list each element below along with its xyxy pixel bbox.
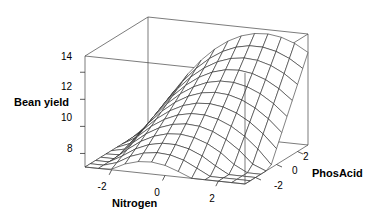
y-tick-label-2: -2: [274, 180, 283, 191]
box-edge-top-far: [148, 17, 308, 34]
y-tick-label-1: 0: [292, 165, 298, 176]
z-tick-label-1: 12: [61, 81, 73, 92]
y-tick-1: [277, 165, 283, 168]
z-tick-label-2: 10: [61, 112, 73, 123]
x-axis-title: Nitrogen: [112, 197, 158, 209]
z-axis-title: Bean yield: [14, 96, 69, 108]
plot-canvas: Bean yield Nitrogen PhosAcid 14 12 10 8 …: [0, 0, 373, 221]
y-axis-title: PhosAcid: [312, 167, 363, 179]
y-tick-label-0: 2: [303, 151, 309, 162]
surface-plot-figure: Bean yield Nitrogen PhosAcid 14 12 10 8 …: [0, 0, 373, 221]
y-tick-2: [256, 178, 262, 181]
x-tick-0: [109, 170, 112, 175]
x-tick-label-1: 0: [154, 187, 160, 198]
x-tick-label-0: -2: [98, 181, 107, 192]
box-edge-top-left: [85, 17, 148, 56]
x-tick-1: [163, 176, 166, 181]
x-tick-label-2: 2: [209, 193, 215, 204]
x-tick-2: [216, 181, 219, 186]
surface-mesh: [85, 33, 308, 184]
z-tick-label-0: 14: [61, 51, 73, 62]
z-tick-label-3: 8: [67, 143, 73, 154]
